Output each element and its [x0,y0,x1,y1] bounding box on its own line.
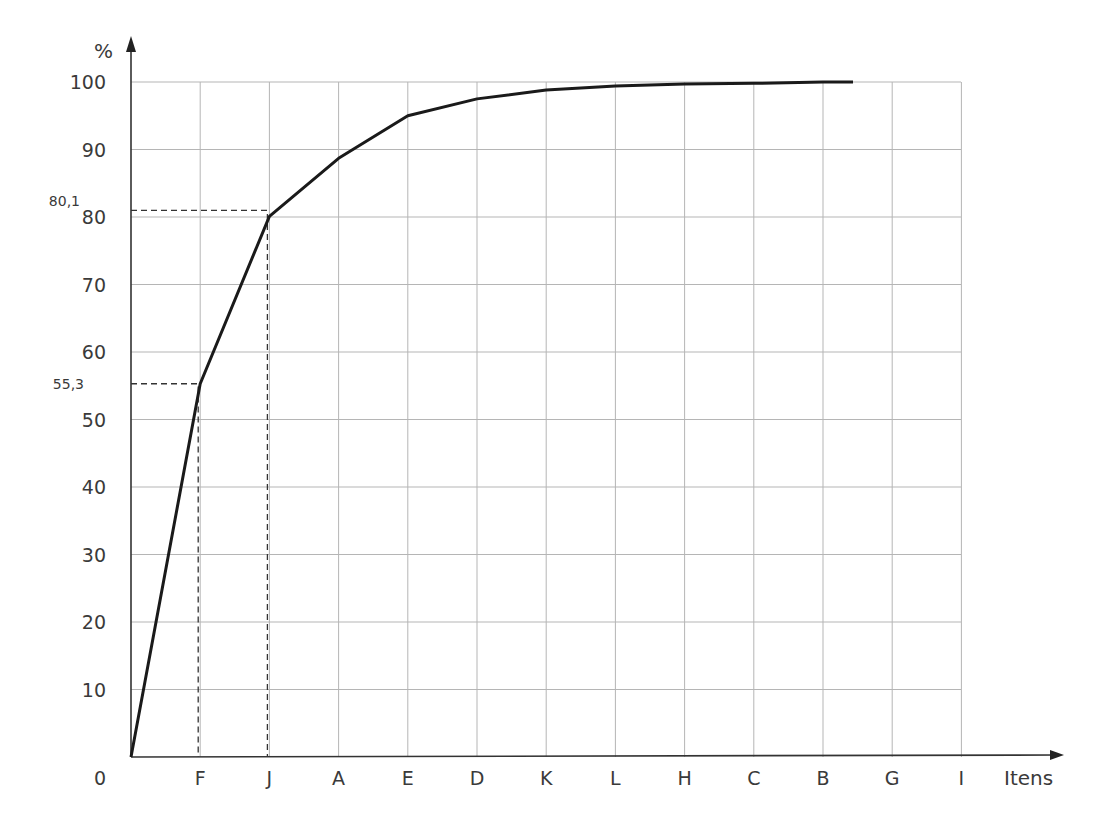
y-tick-label: 70 [82,274,106,296]
y-axis-label: % [94,39,113,63]
dashed-guide [131,210,267,757]
x-tick-label: L [610,767,621,789]
y-tick-label: 40 [82,476,106,498]
x-tick-label: C [747,767,760,789]
x-tick-label: E [402,767,414,789]
x-tick-label: A [332,767,345,789]
x-tick-label: H [677,767,691,789]
x-tick-label: D [470,767,485,789]
y-tick-label: 90 [82,139,106,161]
y-tick-label: 50 [82,409,106,431]
y-tick-label: 100 [70,71,106,93]
y-axis-arrow-icon [126,36,136,52]
x-tick-label: J [266,767,273,789]
y-tick-label: 30 [82,544,106,566]
x-axis-label: Itens [1004,766,1053,790]
x-tick-labels: FJAEDKLHCBGI [195,767,964,789]
axes [126,36,1064,760]
x-tick-label: I [959,767,965,789]
x-tick-label: B [816,767,829,789]
x-tick-label: F [195,767,206,789]
grid [131,82,961,757]
annotation-label: 80,1 [49,193,80,209]
x-tick-label: K [540,767,553,789]
y-tick-label: 80 [82,206,106,228]
pareto-chart: 102030405060708090100 FJAEDKLHCBGI 55,38… [0,0,1100,828]
x-axis-arrow-icon [1050,750,1064,760]
annotation-guides [131,210,267,757]
origin-label: 0 [94,767,106,789]
y-tick-label: 10 [82,679,106,701]
y-tick-label: 20 [82,611,106,633]
y-tick-label: 60 [82,341,106,363]
annotation-labels: 55,380,1 [49,193,84,391]
x-tick-label: G [885,767,900,789]
annotation-label: 55,3 [53,376,84,392]
